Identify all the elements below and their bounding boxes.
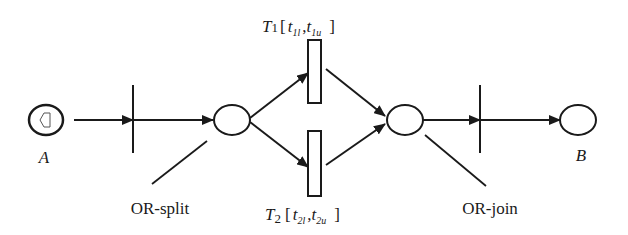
or-split-leader (152, 141, 207, 184)
transition-t1 (308, 40, 321, 103)
or-join-leader (425, 135, 486, 186)
svg-text:T1[t1l,t1u]: T1[t1l,t1u] (262, 17, 335, 38)
place-or-split (214, 105, 250, 135)
or-split-label: OR-split (131, 199, 190, 218)
t1-label: T1[t1l,t1u] (262, 17, 335, 38)
place-or-join (387, 105, 423, 135)
arc-t2-to-join (326, 124, 385, 165)
place-a (29, 105, 63, 135)
arc-split-to-t2 (250, 122, 308, 167)
petri-net-diagram: A B OR-split OR-join T1[t1l,t1u] T2[t2l, (0, 0, 628, 235)
arc-t1-to-join (326, 69, 385, 116)
transition-t2 (308, 131, 321, 196)
or-join-label: OR-join (462, 199, 518, 218)
place-b (560, 105, 596, 135)
place-b-label: B (576, 146, 587, 165)
place-a-label: A (38, 148, 50, 167)
token-icon (40, 113, 50, 127)
t2-label: T2[t2l,t2u] (265, 205, 340, 226)
arc-split-to-t1 (250, 73, 308, 118)
svg-text:T2[t2l,t2u]: T2[t2l,t2u] (265, 205, 340, 226)
